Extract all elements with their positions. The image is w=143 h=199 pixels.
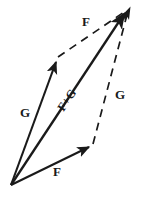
dashed-line-f-translated bbox=[58, 10, 127, 57]
vector-parallelogram-diagram: F G G F F+G bbox=[0, 0, 143, 199]
label-f-bottom: F bbox=[53, 165, 61, 178]
label-g-right: G bbox=[115, 88, 125, 101]
label-f-top: F bbox=[82, 15, 90, 28]
dashed-line-g-translated bbox=[93, 11, 128, 144]
label-g-left: G bbox=[20, 106, 30, 119]
